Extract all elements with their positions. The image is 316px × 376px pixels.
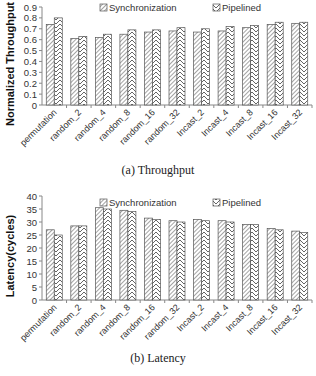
y-tick-label: 30 [26,217,37,228]
bar-synchronization [95,208,103,300]
legend-label: Pipelined [222,197,261,208]
bar-pipelined [103,209,111,300]
bar-synchronization [144,218,152,300]
bar-synchronization [292,23,300,105]
legend-label: Synchronization [109,2,177,13]
throughput-plot: 00.10.20.30.40.50.60.70.80.9permutationr… [0,0,316,165]
bar-pipelined [177,28,185,105]
bar-pipelined [226,27,234,105]
bar-pipelined [54,235,62,300]
y-tick-label: 15 [26,256,37,267]
y-tick-label: 35 [26,204,37,215]
latency-plot: 0510152025303540permutationrandom_2rando… [0,188,316,353]
y-tick-label: 0.1 [24,89,37,100]
bar-pipelined [79,226,87,300]
y-tick-label: 0 [32,295,37,306]
y-tick-label: 40 [26,191,37,202]
bar-pipelined [202,221,210,300]
bar-synchronization [218,221,226,300]
bar-synchronization [46,230,54,300]
bar-pipelined [103,34,111,105]
y-tick-label: 5 [32,282,37,293]
y-tick-label: 0.9 [24,2,37,13]
throughput-chart: 00.10.20.30.40.50.60.70.80.9permutationr… [0,0,316,188]
legend-swatch-icon [213,4,220,11]
bar-pipelined [226,222,234,300]
bar-pipelined [202,29,210,105]
y-tick-label: 0.4 [24,56,37,67]
bar-pipelined [152,30,160,105]
legend-swatch-icon [100,4,107,11]
bar-synchronization [71,39,79,105]
bar-synchronization [267,24,275,105]
bar-synchronization [243,28,251,105]
y-tick-label: 20 [26,243,37,254]
bar-synchronization [194,32,202,105]
y-axis-label: Normalized Throughput [4,2,16,126]
y-axis-label: Latency(cycles) [4,214,16,297]
y-tick-label: 0.7 [24,23,37,34]
legend-swatch-icon [100,199,107,206]
bar-pipelined [128,212,136,300]
bar-synchronization [71,226,79,300]
bar-synchronization [46,24,54,105]
y-tick-label: 0.3 [24,67,37,78]
y-tick-label: 25 [26,230,37,241]
legend-swatch-icon [213,199,220,206]
legend-label: Pipelined [222,2,261,13]
bar-synchronization [218,31,226,105]
y-tick-label: 0.5 [24,45,37,56]
y-tick-label: 0.8 [24,12,37,23]
bar-pipelined [152,219,160,300]
bar-synchronization [169,31,177,105]
bar-pipelined [300,22,308,105]
bar-synchronization [144,32,152,105]
bar-pipelined [177,222,185,300]
bar-synchronization [169,221,177,300]
bar-pipelined [300,232,308,300]
y-tick-label: 0.6 [24,34,37,45]
bar-pipelined [251,225,259,300]
bar-pipelined [79,36,87,105]
bar-synchronization [120,34,128,105]
bar-pipelined [275,22,283,105]
bar-synchronization [243,225,251,300]
bar-pipelined [54,18,62,105]
bar-pipelined [275,230,283,300]
bar-synchronization [194,219,202,300]
bar-synchronization [292,231,300,300]
latency-caption: (b) Latency [0,351,316,366]
throughput-caption: (a) Throughput [0,163,316,178]
y-tick-label: 0 [32,100,37,111]
legend-label: Synchronization [109,197,177,208]
latency-chart: 0510152025303540permutationrandom_2rando… [0,188,316,376]
bar-synchronization [267,229,275,301]
bar-synchronization [120,210,128,300]
y-tick-label: 0.2 [24,78,37,89]
bar-pipelined [128,30,136,105]
y-tick-label: 10 [26,269,37,280]
bar-synchronization [95,37,103,105]
bar-pipelined [251,26,259,105]
